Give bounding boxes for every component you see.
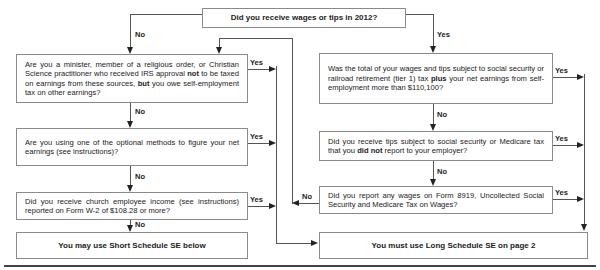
connector bbox=[248, 206, 270, 207]
arrow-right-icon bbox=[269, 140, 276, 146]
form-8919-question: Did you report any wages on Form 8919, U… bbox=[328, 191, 544, 210]
arrow-right-icon bbox=[577, 74, 584, 80]
label-yes: Yes bbox=[555, 134, 568, 143]
connector bbox=[553, 199, 578, 200]
wage-limit-question-box: Was the total of your wages and tips sub… bbox=[319, 53, 553, 104]
connector bbox=[553, 145, 578, 146]
optional-methods-question: Are you using one of the optional method… bbox=[25, 138, 239, 157]
arrow-down-icon bbox=[581, 224, 587, 231]
label-yes: Yes bbox=[555, 188, 568, 197]
arrow-down-icon bbox=[127, 47, 133, 54]
church-income-question: Did you receive church employee income (… bbox=[25, 197, 239, 216]
label-no: No bbox=[437, 110, 447, 119]
form-8919-question-box: Did you report any wages on Form 8919, U… bbox=[319, 186, 553, 214]
optional-methods-question-box: Are you using one of the optional method… bbox=[16, 128, 248, 166]
connector-yes-collector bbox=[276, 66, 277, 244]
connector-right-yes-collector bbox=[584, 74, 585, 225]
arrow-right-icon bbox=[311, 240, 318, 246]
long-schedule-result-box: You must use Long Schedule SE on page 2 bbox=[319, 232, 588, 259]
wage-limit-question: Was the total of your wages and tips sub… bbox=[328, 64, 544, 92]
unreported-tips-question-box: Did you receive tips subject to social s… bbox=[319, 131, 553, 161]
long-schedule-result: You must use Long Schedule SE on page 2 bbox=[328, 241, 579, 250]
minister-question-box: Are you a minister, member of a religiou… bbox=[16, 54, 248, 103]
connector-8919-no bbox=[298, 203, 319, 204]
horizontal-rule bbox=[4, 265, 596, 267]
connector-loop-v bbox=[292, 38, 293, 204]
arrow-down-icon bbox=[216, 47, 222, 54]
label-yes: Yes bbox=[555, 66, 568, 75]
connector bbox=[248, 69, 270, 70]
connector bbox=[130, 103, 131, 122]
connector-start-yes-v bbox=[433, 14, 434, 47]
arrow-down-icon bbox=[127, 185, 133, 192]
connector bbox=[248, 143, 270, 144]
label-no: No bbox=[135, 107, 145, 116]
arrow-left-icon bbox=[292, 200, 299, 206]
short-schedule-result: You may use Short Schedule SE below bbox=[25, 241, 239, 250]
connector-to-long bbox=[276, 243, 312, 244]
label-no: No bbox=[302, 192, 312, 201]
arrow-right-icon bbox=[577, 142, 584, 148]
unreported-tips-question: Did you receive tips subject to social s… bbox=[328, 137, 544, 156]
arrow-right-icon bbox=[269, 203, 276, 209]
arrow-right-icon bbox=[577, 196, 584, 202]
church-income-question-box: Did you receive church employee income (… bbox=[16, 192, 248, 220]
start-question: Did you receive wages or tips in 2012? bbox=[211, 13, 397, 22]
arrow-down-icon bbox=[430, 124, 436, 131]
connector-loop-h-top bbox=[219, 38, 293, 39]
connector-start-no-v bbox=[130, 14, 131, 48]
start-question-box: Did you receive wages or tips in 2012? bbox=[202, 8, 406, 28]
label-no: No bbox=[437, 167, 447, 176]
arrow-down-icon bbox=[127, 225, 133, 232]
arrow-down-icon bbox=[430, 179, 436, 186]
label-no: No bbox=[135, 30, 145, 39]
connector-start-no-h bbox=[130, 14, 202, 15]
label-no: No bbox=[135, 220, 145, 229]
label-yes: Yes bbox=[437, 30, 450, 39]
connector bbox=[433, 161, 434, 180]
connector bbox=[130, 166, 131, 186]
label-yes: Yes bbox=[250, 132, 263, 141]
label-no: No bbox=[135, 172, 145, 181]
connector-start-yes-h bbox=[406, 14, 434, 15]
label-yes: Yes bbox=[250, 58, 263, 67]
connector bbox=[433, 104, 434, 125]
arrow-down-icon bbox=[430, 46, 436, 53]
connector bbox=[553, 77, 578, 78]
arrow-right-icon bbox=[269, 66, 276, 72]
minister-question: Are you a minister, member of a religiou… bbox=[25, 60, 239, 98]
arrow-down-icon bbox=[127, 121, 133, 128]
label-yes: Yes bbox=[250, 195, 263, 204]
short-schedule-result-box: You may use Short Schedule SE below bbox=[16, 232, 248, 259]
